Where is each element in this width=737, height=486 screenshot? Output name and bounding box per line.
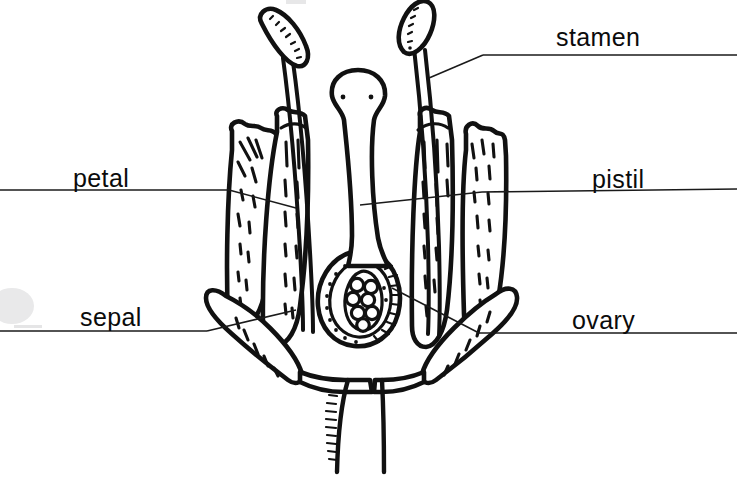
anther-left xyxy=(260,9,308,66)
flower-illustration xyxy=(206,1,517,472)
diagram-page: stamen petal pistil sepal ovary xyxy=(0,0,737,486)
label-ovary[interactable]: ovary xyxy=(572,306,635,334)
pedicel-hatching xyxy=(326,395,337,460)
flower-anatomy-diagram: stamen petal pistil sepal ovary xyxy=(0,0,737,486)
label-petal[interactable]: petal xyxy=(73,164,129,192)
anther-right xyxy=(399,1,435,54)
stamen-leader-line xyxy=(429,55,483,78)
receptacle xyxy=(300,372,424,392)
pistil xyxy=(332,70,388,266)
label-sepal[interactable]: sepal xyxy=(80,303,142,331)
label-pistil[interactable]: pistil xyxy=(592,165,644,193)
label-stamen[interactable]: stamen xyxy=(556,23,640,51)
